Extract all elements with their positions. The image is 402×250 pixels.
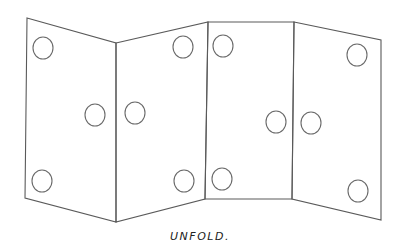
hole-circle [125, 102, 145, 124]
panel-1 [25, 18, 116, 222]
panel-outline [205, 22, 294, 199]
folded-paper-diagram [0, 0, 402, 250]
hole-circle [301, 112, 321, 134]
hole-circle [213, 35, 233, 57]
panel-4 [292, 22, 381, 220]
hole-circle [32, 170, 52, 192]
hole-circle [266, 111, 286, 133]
hole-circle [85, 104, 105, 126]
panel-2 [116, 22, 208, 222]
hole-circle [173, 36, 193, 58]
panel-3 [205, 22, 294, 199]
hole-circle [174, 170, 194, 192]
hole-circle [33, 37, 53, 59]
hole-circle [347, 44, 367, 66]
hole-circle [212, 168, 232, 190]
caption-unfold: UNFOLD. [150, 230, 250, 243]
hole-circle [348, 180, 368, 202]
